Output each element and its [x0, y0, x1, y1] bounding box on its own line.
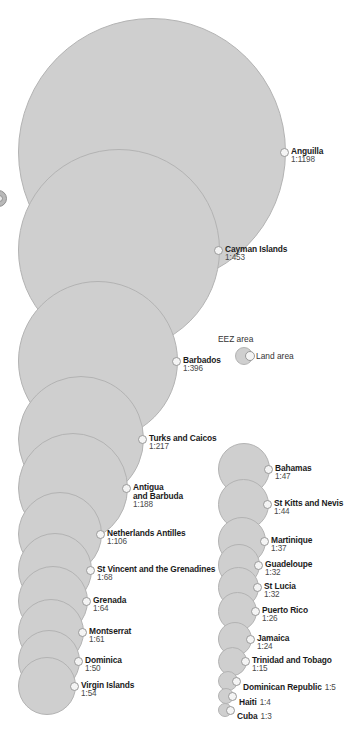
label-ratio: 1:453: [225, 254, 287, 263]
marker-guadeloupe[interactable]: [254, 561, 263, 570]
marker-trinidad-and-tobago[interactable]: [241, 657, 250, 666]
label-ratio: 1:37: [271, 545, 312, 554]
marker-virgin-islands[interactable]: [70, 682, 79, 691]
label-ratio: 1:5: [325, 683, 336, 692]
label-netherlands-antilles: Netherlands Antilles1:106: [107, 529, 186, 547]
marker-st-kitts-and-nevis[interactable]: [263, 500, 272, 509]
label-st-lucia: St Lucia1:32: [264, 582, 296, 600]
marker-cayman-islands[interactable]: [214, 246, 223, 255]
label-ratio: 1:44: [274, 508, 343, 517]
label-ratio: 1:26: [262, 615, 308, 624]
label-antigua: Antiguaand Barbuda1:188: [133, 483, 183, 510]
marker-puerto-rico[interactable]: [251, 607, 260, 616]
label-guadeloupe: Guadeloupe1:32: [265, 560, 312, 578]
label-name: Cuba: [237, 711, 258, 721]
marker-barbados[interactable]: [172, 357, 181, 366]
label-name: St Vincent and the Grenadines: [97, 565, 215, 574]
label-martinique: Martinique1:37: [271, 536, 312, 554]
label-grenada: Grenada1:64: [93, 596, 126, 614]
label-ratio: 1:106: [107, 538, 186, 547]
label-ratio: 1:47: [275, 473, 312, 482]
marker-st-vincent-and-the-grenadines[interactable]: [86, 566, 95, 575]
label-ratio: 1:64: [93, 605, 126, 614]
marker-bahamas[interactable]: [264, 465, 273, 474]
label-anguilla: Anguilla1:1198: [291, 147, 323, 165]
label-barbados: Barbados1:396: [183, 356, 221, 374]
marker-dominican-republic[interactable]: [232, 677, 241, 686]
label-trinidad-and-tobago: Trinidad and Tobago1:15: [252, 656, 332, 674]
legend-land-swatch: [245, 351, 255, 361]
label-ratio: 1:24: [257, 643, 289, 652]
label-ratio: 1:50: [85, 665, 122, 674]
label-jamaica: Jamaica1:24: [257, 634, 289, 652]
marker-grenada[interactable]: [82, 597, 91, 606]
marker-st-lucia[interactable]: [253, 583, 262, 592]
label-cuba: Cuba1:3: [237, 705, 272, 722]
marker-antigua[interactable]: [122, 484, 131, 493]
label-cayman-islands: Cayman Islands1:453: [225, 245, 287, 263]
marker-jamaica[interactable]: [246, 635, 255, 644]
legend: EEZ area Land area: [218, 334, 328, 368]
label-montserrat: Montserrat1:61: [89, 627, 131, 645]
bubble-virgin-islands: [18, 657, 76, 715]
marker-anguilla[interactable]: [280, 148, 289, 157]
label-st-kitts-and-nevis: St Kitts and Nevis1:44: [274, 499, 343, 517]
legend-land-label: Land area: [256, 351, 294, 361]
label-ratio: 1:188: [133, 501, 183, 510]
label-turks-and-caicos: Turks and Caicos1:217: [149, 434, 217, 452]
label-ratio: 1:32: [264, 591, 296, 600]
chart-canvas: Anguilla1:1198Cayman Islands1:453Barbado…: [0, 0, 344, 732]
label-ratio: 1:1198: [291, 156, 323, 165]
marker-netherlands-antilles[interactable]: [96, 530, 105, 539]
label-ratio: 1:15: [252, 665, 332, 674]
label-ratio: 1:217: [149, 443, 217, 452]
label-ratio: 1:32: [265, 569, 312, 578]
label-ratio: 1:3: [261, 712, 272, 721]
marker-turks-and-caicos[interactable]: [138, 435, 147, 444]
label-ratio: 1:54: [81, 690, 134, 699]
marker-martinique[interactable]: [260, 537, 269, 546]
legend-eez-label: EEZ area: [218, 334, 253, 344]
marker-montserrat[interactable]: [78, 628, 87, 637]
label-virgin-islands: Virgin Islands1:54: [81, 681, 134, 699]
label-ratio: 1:396: [183, 365, 221, 374]
marker-haiti[interactable]: [228, 692, 237, 701]
marker-dominica[interactable]: [74, 657, 83, 666]
label-bahamas: Bahamas1:47: [275, 464, 312, 482]
label-puerto-rico: Puerto Rico1:26: [262, 606, 308, 624]
marker-cuba[interactable]: [226, 706, 235, 715]
label-ratio: 1:61: [89, 636, 131, 645]
label-dominica: Dominica1:50: [85, 656, 122, 674]
label-ratio: 1:68: [97, 574, 215, 583]
label-st-vincent-and-the-grenadines: St Vincent and the Grenadines1:68: [97, 565, 215, 583]
